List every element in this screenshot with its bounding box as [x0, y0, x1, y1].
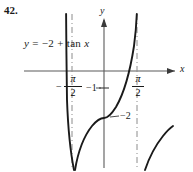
tick-label-half-pi: π 2: [130, 74, 146, 98]
y-axis-label: y: [100, 6, 104, 16]
tick-label-neg-half-pi: − π 2: [62, 74, 84, 98]
neg-half-pi-numerator: π: [62, 74, 84, 85]
equation-function: tan: [67, 37, 81, 49]
neg-half-pi-sign: −: [56, 81, 62, 92]
x-axis: [24, 68, 175, 74]
equation-label: y = −2 + tan x: [24, 38, 89, 49]
equation-lhs: y: [24, 37, 29, 49]
exercise-number: 42.: [4, 5, 18, 16]
tick-label-minus-one: −1: [86, 83, 97, 93]
equation-equals: =: [32, 37, 39, 49]
leader-minus-two: [110, 116, 119, 117]
y-axis: [101, 18, 107, 168]
half-pi-denominator: 2: [130, 88, 146, 99]
exercise-figure: 42. y = −2 + tan x y x −1 −2 − π 2 π 2: [0, 0, 193, 172]
curve-branch-right: [145, 126, 173, 170]
neg-half-pi-denominator: 2: [62, 88, 84, 99]
x-axis-label: x: [180, 64, 184, 74]
equation-plus: +: [57, 37, 64, 49]
half-pi-numerator: π: [130, 74, 146, 85]
equation-variable: x: [84, 37, 89, 49]
tick-label-minus-two: −2: [120, 111, 131, 121]
equation-constant: −2: [42, 37, 54, 49]
